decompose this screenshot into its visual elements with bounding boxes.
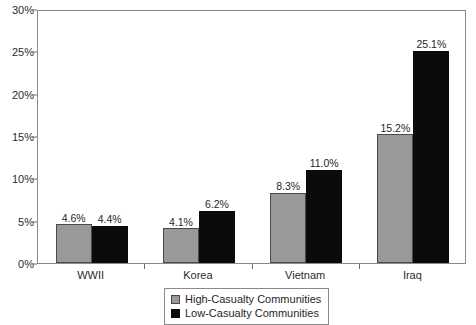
y-axis-tick-mark [32, 221, 37, 222]
bar[interactable]: 4.6% [56, 224, 92, 263]
x-axis-tick-mark [359, 264, 360, 269]
bar-value-label: 4.6% [62, 213, 86, 224]
x-axis-category-label: Korea [183, 270, 212, 281]
y-axis-tick-label: 10% [0, 174, 34, 185]
legend-item[interactable]: High-Casualty Communities [171, 292, 321, 306]
y-axis-tick-mark [32, 264, 37, 265]
x-axis-tick-mark [144, 264, 145, 269]
y-axis-tick-mark [32, 137, 37, 138]
bar-group-bars: 8.3%11.0% [253, 11, 360, 263]
x-axis-category-label: WWII [77, 270, 104, 281]
y-axis-tick-label: 20% [0, 89, 34, 100]
bar-value-label: 11.0% [310, 158, 339, 169]
bar-group: 4.1%6.2% [145, 11, 252, 263]
legend-item-label: High-Casualty Communities [185, 294, 321, 305]
bar[interactable]: 8.3% [270, 193, 306, 263]
y-axis-tick-mark [32, 94, 37, 95]
bar[interactable]: 15.2% [377, 134, 413, 263]
bar[interactable]: 6.2% [199, 211, 235, 263]
y-axis-tick-label: 25% [0, 47, 34, 58]
y-axis-tick-label: 5% [0, 216, 34, 227]
bar-chart: 0%5%10%15%20%25%30% 4.6%4.4%4.1%6.2%8.3%… [0, 0, 476, 325]
x-axis-category-label: Vietnam [285, 270, 325, 281]
chart-legend: High-Casualty CommunitiesLow-Casualty Co… [164, 288, 329, 325]
bar-group: 4.6%4.4% [38, 11, 145, 263]
bar-value-label: 25.1% [416, 39, 446, 50]
bar-value-label: 4.4% [98, 214, 122, 225]
bar-value-label: 8.3% [276, 181, 300, 192]
bar[interactable]: 25.1% [413, 51, 449, 264]
y-axis-tick-mark [32, 10, 37, 11]
legend-item[interactable]: Low-Casualty Communities [171, 306, 321, 320]
bar-value-label: 6.2% [205, 199, 229, 210]
bar-group-bars: 4.1%6.2% [145, 11, 252, 263]
y-axis: 0%5%10%15%20%25%30% [0, 0, 34, 264]
bar-group-bars: 15.2%25.1% [360, 11, 467, 263]
bar-group-bars: 4.6%4.4% [38, 11, 145, 263]
bar-group: 15.2%25.1% [360, 11, 467, 263]
x-axis-tick-mark [252, 264, 253, 269]
y-axis-tick-mark [32, 179, 37, 180]
bar[interactable]: 4.4% [92, 226, 128, 263]
y-axis-tick-label: 0% [0, 259, 34, 270]
bar[interactable]: 11.0% [306, 170, 342, 263]
plot-area: 4.6%4.4%4.1%6.2%8.3%11.0%15.2%25.1% [37, 10, 466, 264]
x-axis-category-label: Iraq [403, 270, 422, 281]
y-axis-tick-label: 30% [0, 5, 34, 16]
bar-value-label: 15.2% [380, 123, 410, 134]
legend-swatch-icon [171, 309, 180, 318]
plot-inner: 4.6%4.4%4.1%6.2%8.3%11.0%15.2%25.1% [38, 11, 465, 263]
bar-value-label: 4.1% [169, 217, 193, 228]
y-axis-tick-label: 15% [0, 132, 34, 143]
y-axis-tick-mark [32, 52, 37, 53]
bar[interactable]: 4.1% [163, 228, 199, 263]
bar-group: 8.3%11.0% [253, 11, 360, 263]
legend-item-label: Low-Casualty Communities [185, 308, 319, 319]
legend-swatch-icon [171, 295, 180, 304]
